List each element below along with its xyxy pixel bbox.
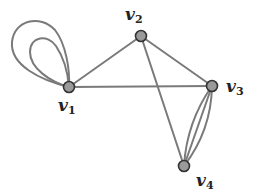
vertex-label-v2: v2 — [125, 4, 143, 26]
graph-diagram: v1v2v3v4 — [0, 0, 266, 193]
edge-v3-v4-straight — [184, 86, 212, 166]
vertex-label-v4: v4 — [196, 170, 214, 192]
vertex-v4 — [179, 161, 190, 172]
vertex-label-v3: v3 — [226, 76, 244, 98]
edge-v1-v2-straight — [69, 36, 141, 87]
edge-v2-v4-straight — [141, 36, 184, 166]
vertex-label-v1: v1 — [58, 95, 76, 117]
vertex-v3 — [207, 81, 218, 92]
vertex-v1 — [64, 82, 75, 93]
vertex-v2 — [136, 31, 147, 42]
edge-v2-v3-straight — [141, 36, 212, 86]
edge-v1-v3-straight — [69, 86, 212, 87]
